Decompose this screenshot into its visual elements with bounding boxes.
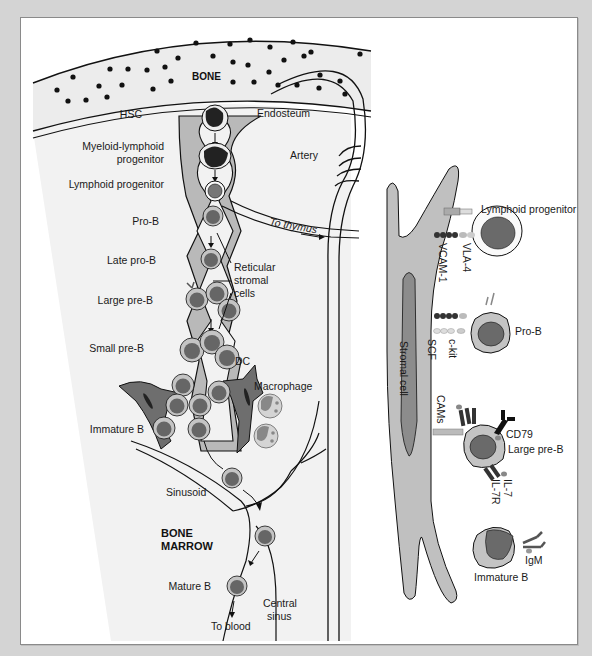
stage-label-myeloid-lymphoid-2: progenitor	[117, 153, 165, 165]
stage-label-mature-b: Mature B	[168, 580, 211, 592]
mature-b-cell-upper	[255, 526, 275, 546]
scf-ckit-binding	[434, 313, 468, 334]
rp-pro-b-label: Pro-B	[515, 325, 542, 337]
central-sinus-label-2: sinus	[267, 610, 292, 622]
stage-label-pro-b: Pro-B	[132, 215, 159, 227]
rp-lymphoid-progenitor-label: Lymphoid progenitor	[481, 203, 577, 215]
reticular-label-2: stromal	[234, 274, 268, 286]
macrophage-label: Macrophage	[254, 380, 313, 392]
stage-label-small-pre-b: Small pre-B	[89, 342, 144, 354]
igm-label: IgM	[525, 554, 543, 566]
dc-label: DC	[235, 355, 251, 367]
bone-label: BONE	[192, 71, 221, 82]
rp-pro-b-cell	[471, 313, 510, 354]
stage-label-lymphoid-progenitor: Lymphoid progenitor	[69, 178, 165, 190]
stage-label-immature-b: Immature B	[90, 423, 144, 435]
bone-marrow-panel: BONE To thymus	[33, 37, 371, 641]
vcam1-label: VCAM-1	[437, 243, 449, 283]
endosteum-label: Endosteum	[257, 107, 310, 119]
figure-frame: BONE To thymus	[20, 17, 578, 645]
reticular-label-1: Reticular	[234, 261, 276, 273]
central-sinus-label-1: Central	[263, 597, 297, 609]
mature-b-cell	[227, 576, 247, 596]
igm-receptor	[523, 532, 545, 554]
bone-marrow-label-1: BONE	[161, 527, 193, 539]
stromal-cell-label: Stromal cell	[398, 341, 410, 396]
migrating-b-cell	[222, 468, 242, 488]
stromal-interaction-panel: Stromal cell Lymphoid progenitor VCAM-1 …	[387, 166, 577, 603]
late-pro-b-cell	[201, 249, 221, 269]
stage-label-late-pro-b: Late pro-B	[107, 254, 156, 266]
rp-immature-b-label: Immature B	[474, 571, 528, 583]
cd79-label: CD79	[506, 428, 533, 440]
rp-large-pre-b-label: Large pre-B	[508, 443, 563, 455]
hsc-cell	[202, 105, 228, 131]
myeloid-lymphoid-progenitor-cell	[199, 143, 231, 169]
il7-label: IL-7	[502, 479, 514, 497]
sinusoid-label: Sinusoid	[166, 486, 206, 498]
lymphoid-progenitor-cell	[205, 181, 225, 201]
il7r-label: IL-7R	[490, 479, 502, 505]
ckit-label: c-kit	[447, 339, 459, 358]
b-cell-development-diagram: BONE To thymus	[21, 18, 577, 644]
cams-label: CAMs	[435, 395, 447, 424]
vla4-label: VLA-4	[461, 243, 473, 272]
scf-label: SCF	[426, 339, 438, 360]
stage-label-myeloid-lymphoid-1: Myeloid-lymphoid	[82, 140, 164, 152]
bone-marrow-label-2: MARROW	[161, 540, 214, 552]
stage-label-large-pre-b: Large pre-B	[98, 294, 153, 306]
cams-receptors	[456, 405, 476, 427]
stromal-cell	[387, 166, 459, 603]
stage-label-hsc: HSC	[120, 108, 143, 120]
pro-b-cell	[203, 206, 223, 226]
artery-label: Artery	[290, 149, 319, 161]
rp-immature-b-cell	[473, 527, 515, 568]
reticular-label-3: cells	[234, 287, 255, 299]
to-blood-label: To blood	[211, 620, 251, 632]
